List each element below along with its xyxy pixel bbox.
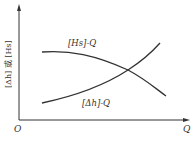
hs-q-curve bbox=[42, 52, 166, 96]
origin-label: O bbox=[14, 124, 22, 134]
x-axis-label: Q bbox=[183, 124, 191, 134]
dh-q-label: [Δh]-Q bbox=[82, 98, 110, 108]
y-axis-arrow-icon bbox=[17, 4, 21, 11]
hs-q-label: [Hs]-Q bbox=[68, 38, 96, 48]
diagram-canvas: [Hs]-Q [Δh]-Q O Q [Δh] 或 [Hs] bbox=[0, 0, 195, 143]
x-axis-arrow-icon bbox=[183, 118, 190, 122]
y-axis-label: [Δh] 或 [Hs] bbox=[3, 40, 13, 88]
